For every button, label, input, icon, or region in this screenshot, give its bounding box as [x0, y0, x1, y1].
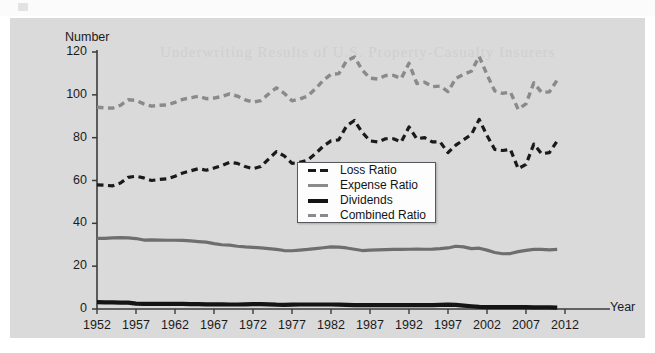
- x-tick-label: 1962: [155, 318, 195, 332]
- series-expense-ratio: [97, 238, 557, 254]
- legend-item-dividends: Dividends: [306, 193, 435, 208]
- y-tick-label: 0: [53, 301, 87, 315]
- series-dividends: [97, 302, 557, 308]
- series-combined-ratio: [97, 57, 557, 110]
- y-tick-label: 20: [53, 258, 87, 272]
- y-tick-label: 40: [53, 215, 87, 229]
- chart-legend: Loss Ratio Expense Ratio Dividends C: [297, 162, 436, 223]
- legend-item-expense-ratio: Expense Ratio: [306, 178, 435, 193]
- x-tick-label: 1972: [233, 318, 273, 332]
- legend-swatch-dashed-gray-icon: [306, 208, 334, 223]
- y-tick-label: 100: [53, 87, 87, 101]
- legend-label: Loss Ratio: [340, 163, 397, 178]
- x-tick-label: 1977: [272, 318, 312, 332]
- x-tick-label: 1957: [116, 318, 156, 332]
- x-tick-label: 1982: [311, 318, 351, 332]
- y-tick-label: 60: [53, 173, 87, 187]
- x-tick-label: 1997: [428, 318, 468, 332]
- legend-label: Combined Ratio: [340, 208, 426, 223]
- legend-label: Expense Ratio: [340, 178, 418, 193]
- legend-item-loss-ratio: Loss Ratio: [306, 163, 435, 178]
- x-tick-label: 1952: [77, 318, 117, 332]
- legend-swatch-dashed-black-icon: [306, 163, 334, 178]
- x-tick-label: 1992: [389, 318, 429, 332]
- legend-item-combined-ratio: Combined Ratio: [306, 208, 435, 223]
- legend-swatch-solid-gray-icon: [306, 178, 334, 193]
- legend-swatch-solid-black-icon: [306, 193, 334, 208]
- page-margin: [0, 0, 655, 16]
- x-tick-label: 1967: [194, 318, 234, 332]
- x-tick-label: 2007: [506, 318, 546, 332]
- x-axis-title: Year: [610, 300, 635, 314]
- y-tick-label: 80: [53, 130, 87, 144]
- x-tick-label: 1987: [350, 318, 390, 332]
- scan-smudge: [18, 3, 28, 11]
- x-tick-label: 2012: [545, 318, 585, 332]
- legend-label: Dividends: [340, 193, 393, 208]
- y-tick-label: 120: [53, 44, 87, 58]
- y-axis-title: Number: [65, 30, 109, 44]
- x-tick-label: 2002: [467, 318, 507, 332]
- figure-root: Underwriting Results of U.S. Property-Ca…: [0, 0, 655, 353]
- chart-panel: Underwriting Results of U.S. Property-Ca…: [10, 18, 645, 338]
